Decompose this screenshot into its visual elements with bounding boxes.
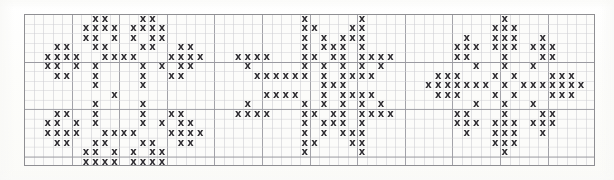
stitch-cell[interactable]: x [110,157,120,167]
stitch-cell[interactable]: x [424,81,434,91]
stitch-cell[interactable]: x [281,90,291,100]
stitch-cell[interactable]: x [43,128,53,138]
stitch-cell[interactable]: x [462,81,472,91]
stitch-cell[interactable]: x [129,33,139,43]
stitch-cell[interactable]: x [529,43,539,53]
stitch-cell[interactable]: x [252,71,262,81]
stitch-cell[interactable]: x [329,52,339,62]
stitch-cell[interactable]: x [272,90,282,100]
stitch-cell[interactable]: x [386,52,396,62]
stitch-cell[interactable]: x [157,157,167,167]
stitch-cell[interactable]: x [167,71,177,81]
stitch-cell[interactable]: x [367,109,377,119]
stitch-cell[interactable]: x [195,128,205,138]
stitch-cell[interactable]: x [119,128,129,138]
stitch-cell[interactable]: x [100,24,110,34]
stitch-cell[interactable]: x [291,90,301,100]
stitch-cell[interactable]: x [243,109,253,119]
stitch-cell[interactable]: x [548,90,558,100]
stitch-cell[interactable]: x [262,71,272,81]
stitch-cell[interactable]: x [500,147,510,157]
stitch-cell[interactable]: x [110,90,120,100]
stitch-cell[interactable]: x [262,109,272,119]
stitch-cell[interactable]: x [176,71,186,81]
stitch-cell[interactable]: x [176,138,186,148]
stitch-cell[interactable]: x [357,147,367,157]
stitch-cell[interactable]: x [548,52,558,62]
stitch-cell[interactable]: x [500,81,510,91]
stitch-cell[interactable]: x [43,62,53,72]
stitch-cell[interactable]: x [138,138,148,148]
stitch-cell[interactable]: x [443,90,453,100]
stitch-cell[interactable]: x [262,90,272,100]
stitch-cell[interactable]: x [72,62,82,72]
stitch-cell[interactable]: x [510,71,520,81]
stitch-cell[interactable]: x [53,71,63,81]
stitch-cell[interactable]: x [233,109,243,119]
stitch-cell[interactable]: x [167,128,177,138]
stitch-cell[interactable]: x [81,157,91,167]
stitch-cell[interactable]: x [167,109,177,119]
stitch-cell[interactable]: x [129,157,139,167]
stitch-cell[interactable]: x [548,119,558,129]
stitch-cell[interactable]: x [329,119,339,129]
stitch-cell[interactable]: x [62,71,72,81]
stitch-cell[interactable]: x [338,128,348,138]
stitch-cell[interactable]: x [53,138,63,148]
stitch-cell[interactable]: x [100,52,110,62]
stitch-cell[interactable]: x [367,52,377,62]
stitch-cell[interactable]: x [462,52,472,62]
stitch-cell[interactable]: x [471,62,481,72]
stitch-cell[interactable]: x [500,62,510,72]
stitch-cell[interactable]: x [319,100,329,110]
stitch-cell[interactable]: x [310,24,320,34]
stitch-cell[interactable]: x [186,138,196,148]
stitch-cell[interactable]: x [471,81,481,91]
stitch-cell[interactable]: x [319,43,329,53]
stitch-cell[interactable]: x [272,71,282,81]
stitch-cell[interactable]: x [452,52,462,62]
stitch-cell[interactable]: x [262,52,272,62]
stitch-cell[interactable]: x [471,100,481,110]
stitch-cell[interactable]: x [538,81,548,91]
stitch-cell[interactable]: x [129,52,139,62]
stitch-cell[interactable]: x [510,43,520,53]
stitch-cell[interactable]: x [348,33,358,43]
stitch-cell[interactable]: x [138,81,148,91]
stitch-cell[interactable]: x [62,138,72,148]
stitch-cell[interactable]: x [252,109,262,119]
stitch-cell[interactable]: x [490,43,500,53]
stitch-cell[interactable]: x [386,109,396,119]
stitch-cell[interactable]: x [243,62,253,72]
stitch-cell[interactable]: x [348,138,358,148]
stitch-cell[interactable]: x [148,43,158,53]
stitch-cell[interactable]: x [110,52,120,62]
stitch-cell[interactable]: x [510,138,520,148]
stitch-cell[interactable]: x [538,128,548,138]
stitch-cell[interactable]: x [157,33,167,43]
stitch-cell[interactable]: x [62,52,72,62]
stitch-cell[interactable]: x [529,100,539,110]
stitch-cell[interactable]: x [519,81,529,91]
stitch-cell[interactable]: x [452,90,462,100]
stitch-cell[interactable]: x [490,90,500,100]
stitch-cell[interactable]: x [167,52,177,62]
stitch-cell[interactable]: x [490,71,500,81]
stitch-cell[interactable]: x [119,52,129,62]
stitch-cell[interactable]: x [252,52,262,62]
stitch-cell[interactable]: x [367,71,377,81]
stitch-cell[interactable]: x [81,33,91,43]
stitch-cell[interactable]: x [300,71,310,81]
stitch-cell[interactable]: x [462,128,472,138]
stitch-cell[interactable]: x [91,119,101,129]
stitch-cell[interactable]: x [138,119,148,129]
stitch-layer[interactable]: xxxxxxxxxxxxxxxxxxxxxxxxxxxxxxxxxxxxxxxx… [24,14,595,166]
stitch-cell[interactable]: x [529,62,539,72]
stitch-cell[interactable]: x [91,81,101,91]
stitch-cell[interactable]: x [138,43,148,53]
stitch-cell[interactable]: x [129,128,139,138]
stitch-cell[interactable]: x [62,109,72,119]
stitch-cell[interactable]: x [348,90,358,100]
stitch-cell[interactable]: x [557,90,567,100]
stitch-cell[interactable]: x [510,90,520,100]
